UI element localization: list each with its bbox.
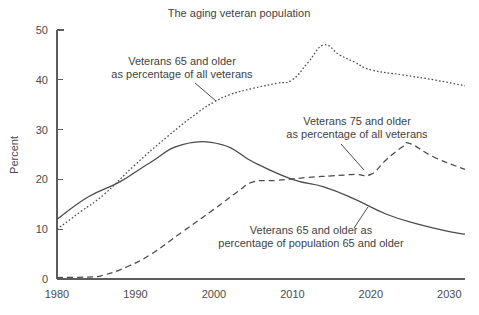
chart-annotations: Veterans 65 and olderas percentage of al… xyxy=(111,55,428,249)
annotation-line-2: percentage of population 65 and older xyxy=(218,237,404,249)
x-tick-label: 2020 xyxy=(359,288,383,300)
annot-65-of-population: Veterans 65 and older aspercentage of po… xyxy=(218,207,404,249)
annotation-leader-line xyxy=(341,144,364,170)
x-tick-label: 2030 xyxy=(437,288,461,300)
y-tick-label: 0 xyxy=(42,273,48,285)
x-tick-label: 2010 xyxy=(280,288,304,300)
x-tick-label: 2000 xyxy=(202,288,226,300)
axis-ticks: 01020304050198019902000201020202030 xyxy=(36,24,462,300)
x-tick-label: 1990 xyxy=(123,288,147,300)
annotation-line-1: Veterans 75 and older xyxy=(303,115,411,127)
annotation-line-2: as percentage of all veterans xyxy=(111,68,253,80)
line-chart: 01020304050198019902000201020202030 Vete… xyxy=(0,0,479,315)
y-tick-label: 20 xyxy=(36,173,48,185)
y-tick-label: 40 xyxy=(36,74,48,86)
y-axis-title: Percent xyxy=(8,136,20,174)
annotation-leader-line xyxy=(195,83,216,101)
annotation-line-2: as percentage of all veterans xyxy=(286,128,428,140)
chart-container: 01020304050198019902000201020202030 Vete… xyxy=(0,0,479,315)
series-line-2 xyxy=(57,142,465,235)
chart-title: The aging veteran population xyxy=(168,7,311,19)
annotation-line-1: Veterans 65 and older xyxy=(128,55,236,67)
y-tick-label: 10 xyxy=(36,223,48,235)
x-tick-label: 1980 xyxy=(45,288,69,300)
annotation-line-1: Veterans 65 and older as xyxy=(250,224,373,236)
annot-65-of-all-veterans: Veterans 65 and olderas percentage of al… xyxy=(111,55,253,101)
series-line-3 xyxy=(57,143,465,278)
y-tick-label: 50 xyxy=(36,24,48,36)
y-tick-label: 30 xyxy=(36,124,48,136)
